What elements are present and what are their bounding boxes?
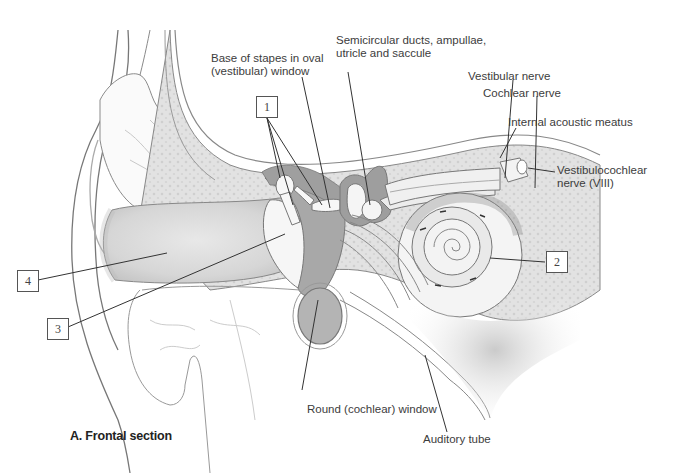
jugular-bulb (298, 288, 342, 344)
label-round-window: Round (cochlear) window (307, 403, 437, 416)
label-vestibulocochlear-line2: nerve (VIII) (557, 177, 614, 190)
figure-caption: A. Frontal section (70, 429, 172, 443)
callout-box-3: 3 (47, 318, 69, 340)
callout-box-1: 1 (256, 96, 278, 118)
callout-box-2: 2 (546, 251, 568, 273)
label-semicircular-line2: utricle and saccule (336, 47, 431, 60)
lower-soft-tissue (128, 286, 300, 473)
label-auditory-tube: Auditory tube (423, 433, 491, 446)
label-stapes-line2: (vestibular) window (211, 65, 309, 78)
label-vestibulocochlear-line1: Vestibulocochlear (557, 164, 647, 177)
label-cochlear-nerve: Cochlear nerve (483, 87, 561, 100)
label-internal-acoustic-meatus: Internal acoustic meatus (508, 116, 633, 129)
label-stapes-line1: Base of stapes in oval (211, 52, 324, 65)
label-vestibular-nerve: Vestibular nerve (468, 70, 550, 83)
ear-anatomy-figure: Base of stapes in oval (vestibular) wind… (0, 0, 681, 473)
label-semicircular-line1: Semicircular ducts, ampullae, (336, 34, 486, 47)
cochlea (398, 193, 522, 317)
callout-box-4: 4 (17, 270, 39, 292)
